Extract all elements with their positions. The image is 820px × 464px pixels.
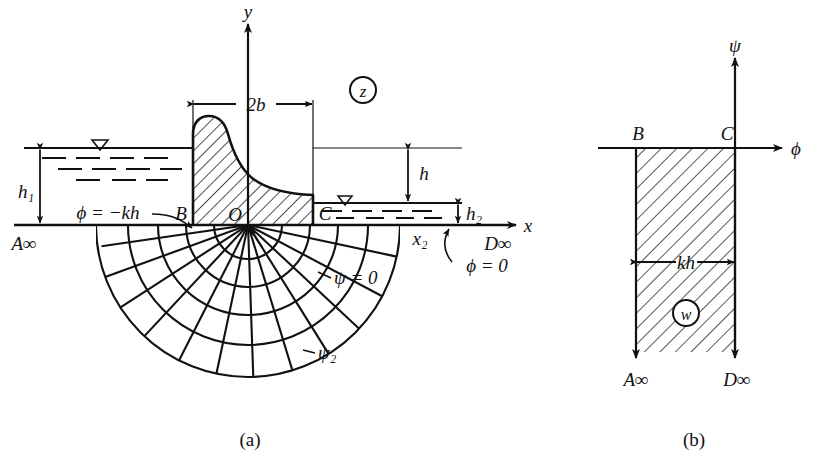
dimension-h1: h₁	[18, 150, 40, 223]
stream-zero-label: ψ = 0	[334, 267, 378, 288]
dimension-h1-label: h₁	[18, 181, 34, 202]
streamlines	[102, 225, 397, 377]
plane-label-w-text: w	[681, 306, 692, 323]
upstream-potential-label: ϕ = −kh	[77, 202, 140, 223]
y-axis-label-a: y	[242, 1, 253, 22]
point-label-A-infinity-a: A∞	[9, 233, 36, 254]
stream-two-leader	[303, 350, 315, 353]
x-axis-label-a: x	[523, 215, 533, 236]
panel-b: ψ ϕ kh w B C A∞ D∞ (b)	[598, 35, 801, 451]
downstream-water-dashes	[322, 211, 442, 218]
caption-b: (b)	[683, 429, 705, 451]
dimension-h: h	[313, 148, 462, 201]
point-label-B-b: B	[632, 123, 644, 144]
caption-a: (a)	[239, 429, 260, 451]
dimension-2b-label: 2b	[247, 94, 266, 115]
dimension-h-label: h	[419, 163, 429, 184]
dimension-kh-label: kh	[677, 252, 695, 273]
point-label-O: O	[228, 204, 242, 225]
dam-body	[193, 110, 317, 228]
dimension-h2-label: h₂	[466, 203, 483, 224]
phi-axis-label: ϕ	[791, 138, 801, 159]
plane-label-z: z	[350, 77, 376, 103]
point-label-D-infinity-b: D∞	[722, 369, 750, 390]
point-label-C-a: C	[319, 203, 332, 224]
plane-label-w: w	[673, 300, 699, 326]
downstream-potential-label: ϕ = 0	[466, 255, 508, 276]
point-label-C-b: C	[721, 123, 734, 144]
plane-label-z-text: z	[359, 82, 367, 101]
psi-axis-label: ψ	[729, 35, 742, 56]
point-label-x2: x₂	[411, 228, 427, 249]
point-label-A-infinity-b: A∞	[621, 369, 648, 390]
flow-net	[96, 225, 400, 377]
upstream-water-dashes	[42, 158, 182, 180]
downstream-potential-leader	[445, 229, 452, 262]
stream-two-label: ψ₂	[318, 342, 337, 363]
point-label-D-infinity-a: D∞	[483, 233, 511, 254]
figure-root: y x	[0, 0, 820, 464]
dimension-h2: h₂	[458, 203, 482, 224]
panel-a: y x	[9, 1, 532, 451]
